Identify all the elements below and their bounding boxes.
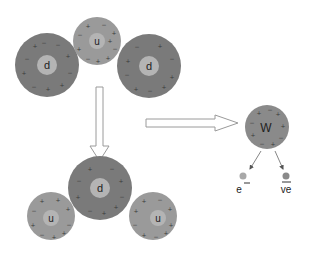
- svg-text:+: +: [55, 196, 60, 203]
- svg-text:−: −: [77, 31, 82, 38]
- svg-text:+: +: [101, 209, 106, 216]
- svg-text:+: +: [125, 57, 130, 64]
- svg-text:+: +: [133, 85, 138, 92]
- svg-text:−: −: [66, 221, 71, 228]
- svg-text:−: −: [85, 55, 90, 62]
- quark-up-top: +− −+ +− −+ ++ u: [73, 17, 121, 65]
- svg-text:+: +: [161, 83, 166, 90]
- svg-text:+: +: [65, 205, 70, 212]
- svg-text:−: −: [249, 119, 254, 126]
- svg-text:+: +: [256, 109, 261, 116]
- antineutrino-label: ve: [281, 184, 292, 195]
- svg-text:−: −: [101, 21, 106, 28]
- svg-text:+: +: [113, 203, 118, 210]
- svg-text:+: +: [32, 42, 37, 49]
- quark-down-center: +− −+ +− −+ + d: [68, 156, 132, 220]
- svg-text:−: −: [31, 207, 36, 214]
- quark-label: u: [48, 213, 54, 224]
- svg-text:+: +: [30, 221, 35, 228]
- svg-text:−: −: [134, 43, 139, 50]
- svg-text:+: +: [250, 131, 255, 138]
- svg-text:+: +: [105, 54, 110, 61]
- quark-down-right: −+ +− −+ +− + d: [117, 34, 181, 98]
- w-to-electron-arrow: [250, 151, 261, 169]
- svg-text:−: −: [132, 221, 137, 228]
- svg-text:+: +: [85, 22, 90, 29]
- svg-text:−: −: [157, 196, 162, 203]
- down-arrow: [90, 87, 109, 161]
- svg-text:−: −: [31, 83, 36, 90]
- svg-text:−: −: [153, 233, 158, 240]
- svg-text:+: +: [107, 37, 112, 44]
- svg-text:+: +: [45, 85, 50, 92]
- svg-text:+: +: [65, 52, 70, 59]
- svg-text:+: +: [275, 110, 280, 117]
- svg-text:+: +: [168, 221, 173, 228]
- quark-up-left: ++ −+ +− −+ + u: [27, 192, 75, 240]
- svg-text:+: +: [118, 177, 123, 184]
- svg-text:−: −: [119, 193, 124, 200]
- svg-text:+: +: [61, 229, 66, 236]
- svg-text:+: +: [163, 229, 168, 236]
- quark-label: u: [155, 213, 161, 224]
- svg-text:+: +: [141, 231, 146, 238]
- svg-text:−: −: [278, 134, 283, 141]
- svg-text:−: −: [259, 140, 264, 147]
- svg-text:−: −: [76, 177, 81, 184]
- svg-text:+: +: [157, 42, 162, 49]
- svg-text:−: −: [39, 231, 44, 238]
- svg-text:+: +: [141, 197, 146, 204]
- svg-text:−: −: [169, 55, 174, 62]
- quark-up-right: +− ++ −+ +− + u: [129, 192, 177, 240]
- svg-text:−: −: [147, 87, 152, 94]
- right-arrow: [146, 115, 238, 131]
- svg-text:−: −: [109, 165, 114, 172]
- svg-text:−: −: [24, 55, 29, 62]
- w-to-antineutrino-arrow: [275, 151, 283, 169]
- svg-text:+: +: [169, 73, 174, 80]
- svg-text:+: +: [51, 233, 56, 240]
- svg-text:−: −: [87, 207, 92, 214]
- quark-label: d: [97, 182, 103, 194]
- svg-text:+: +: [59, 81, 64, 88]
- electron-label: e: [236, 184, 242, 195]
- svg-text:+: +: [21, 69, 26, 76]
- svg-text:−: −: [55, 41, 60, 48]
- quark-label: d: [44, 59, 50, 71]
- svg-text:−: −: [67, 69, 72, 76]
- w-boson: +− +− ++ −− + W: [245, 105, 289, 149]
- w-label: W: [260, 121, 272, 135]
- svg-text:+: +: [167, 205, 172, 212]
- svg-text:+: +: [270, 140, 275, 147]
- svg-text:+: +: [76, 45, 81, 52]
- svg-text:−: −: [41, 39, 46, 46]
- quark-label: u: [94, 36, 100, 47]
- svg-text:−: −: [124, 71, 129, 78]
- proton-group: +− −+ +− −+ + d ++ −+ +− −+ + u: [27, 156, 177, 240]
- quark-down-left: +− −+ +− −+ +− d: [15, 33, 79, 97]
- svg-text:+: +: [75, 193, 80, 200]
- svg-text:−: −: [112, 45, 117, 52]
- svg-text:+: +: [280, 122, 285, 129]
- neutron-group: +− −+ +− −+ +− d −+ +− −+ +− + d: [15, 17, 181, 98]
- svg-text:+: +: [87, 165, 92, 172]
- svg-text:−: −: [267, 106, 272, 113]
- quark-label: d: [146, 60, 152, 72]
- electron: e: [236, 173, 250, 195]
- svg-text:+: +: [111, 29, 116, 36]
- beta-decay-diagram: +− −+ +− −+ +− d −+ +− −+ +− + d: [0, 0, 312, 261]
- svg-text:+: +: [39, 197, 44, 204]
- antineutrino: ve: [281, 173, 292, 195]
- svg-text:+: +: [133, 207, 138, 214]
- svg-text:+: +: [95, 57, 100, 64]
